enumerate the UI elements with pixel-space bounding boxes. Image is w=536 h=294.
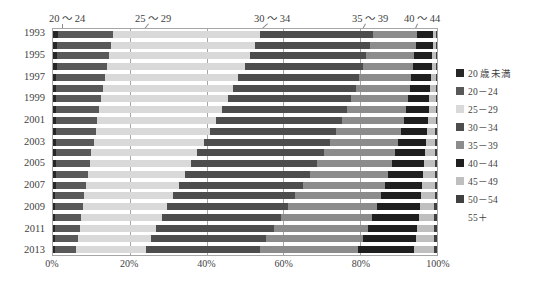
- bar-segment: [56, 171, 88, 178]
- legend-item[interactable]: 35－39: [456, 136, 536, 154]
- bar-segment: [424, 160, 435, 167]
- bar-segment: [86, 182, 179, 189]
- stacked-bar-1993[interactable]: [53, 31, 437, 38]
- bar-segment: [216, 117, 342, 124]
- bar-row: [53, 104, 437, 115]
- bar-segment: [417, 31, 433, 38]
- stacked-bar-2004[interactable]: [53, 149, 437, 156]
- bar-segment: [94, 139, 204, 146]
- bar-row: [53, 201, 437, 212]
- bar-row: [53, 115, 437, 126]
- bar-segment: [295, 192, 380, 199]
- y-axis-label-2009: 2009: [0, 202, 50, 213]
- bar-segment: [90, 160, 191, 167]
- bar-segment: [281, 214, 373, 221]
- legend-swatch: [456, 69, 464, 77]
- bar-segment: [260, 246, 359, 253]
- legend-swatch: [456, 87, 464, 95]
- bar-segment: [422, 182, 435, 189]
- stacked-bar-2000[interactable]: [53, 106, 437, 113]
- legend-item[interactable]: 50－54: [456, 190, 536, 208]
- legend-swatch: [456, 177, 464, 185]
- bar-segment: [56, 139, 94, 146]
- stacked-bar-2009[interactable]: [53, 203, 437, 210]
- bar-segment: [179, 182, 303, 189]
- bar-segment: [173, 192, 296, 199]
- bar-row: [53, 244, 437, 255]
- legend-label: 40－44: [468, 156, 498, 170]
- bar-segment: [377, 203, 420, 210]
- bar-segment: [388, 171, 422, 178]
- legend-item[interactable]: 45－49: [456, 172, 536, 190]
- bar-segment: [83, 203, 167, 210]
- bar-segment: [414, 52, 432, 59]
- bar-segment: [222, 106, 347, 113]
- stacked-bar-2007[interactable]: [53, 182, 437, 189]
- stacked-bar-1994[interactable]: [53, 42, 437, 49]
- y-axis-label-2005: 2005: [0, 158, 50, 169]
- bar-segment: [55, 214, 81, 221]
- bar-segment: [310, 171, 388, 178]
- bar-segment: [228, 95, 352, 102]
- bar-segment: [288, 203, 376, 210]
- bar-row: [53, 169, 437, 180]
- bar-segment: [368, 225, 417, 232]
- legend-item[interactable]: 30－34: [456, 118, 536, 136]
- stacked-bar-1997[interactable]: [53, 74, 437, 81]
- bar-segment: [420, 203, 435, 210]
- stacked-bar-2013[interactable]: [53, 246, 437, 253]
- stacked-bar-1995[interactable]: [53, 52, 437, 59]
- stacked-bar-2010[interactable]: [53, 214, 437, 221]
- legend-label: 35－39: [468, 138, 498, 152]
- bar-row: [53, 223, 437, 234]
- legend-label: 50－54: [468, 192, 498, 206]
- bar-segment: [347, 106, 406, 113]
- bar-segment: [105, 74, 239, 81]
- bar-segment: [413, 63, 431, 70]
- bar-segment: [260, 31, 373, 38]
- stacked-bar-2006[interactable]: [53, 171, 437, 178]
- legend-item[interactable]: 55＋: [456, 208, 536, 226]
- bar-segment: [395, 149, 425, 156]
- bar-segment: [101, 95, 227, 102]
- bar-row: [53, 61, 437, 72]
- stacked-bar-2003[interactable]: [53, 139, 437, 146]
- bar-segment: [423, 171, 435, 178]
- bar-segment: [156, 225, 273, 232]
- bar-segment: [107, 63, 244, 70]
- bar-row: [53, 190, 437, 201]
- y-axis: 1993199519971999200120032005200720092011…: [0, 28, 50, 256]
- bar-row: [53, 94, 437, 105]
- stacked-bar-2002[interactable]: [53, 128, 437, 135]
- legend-item[interactable]: 40－44: [456, 154, 536, 172]
- bar-segment: [84, 192, 172, 199]
- bar-segment: [303, 182, 385, 189]
- y-axis-label-1997: 1997: [0, 71, 50, 82]
- bar-segment: [185, 171, 310, 178]
- bar-segment: [398, 139, 426, 146]
- bar-segment: [191, 160, 317, 167]
- stacked-bar-1999[interactable]: [53, 95, 437, 102]
- stacked-bar-2012[interactable]: [53, 235, 437, 242]
- stacked-bar-2011[interactable]: [53, 225, 437, 232]
- bar-segment: [336, 128, 401, 135]
- legend-swatch: [456, 159, 464, 167]
- stacked-bar-2001[interactable]: [53, 117, 437, 124]
- x-axis-tick: 80%: [352, 258, 370, 269]
- stacked-bar-1998[interactable]: [53, 85, 437, 92]
- legend-item[interactable]: 25－29: [456, 100, 536, 118]
- bar-segment: [404, 117, 428, 124]
- bar-segment: [56, 85, 103, 92]
- stacked-bar-1996[interactable]: [53, 63, 437, 70]
- y-axis-label-1993: 1993: [0, 28, 50, 39]
- x-axis-tick: 0%: [45, 258, 58, 269]
- bar-segment: [317, 160, 392, 167]
- legend-item[interactable]: 20 歳未満: [456, 64, 536, 82]
- bar-segment: [57, 63, 107, 70]
- stacked-bar-2008[interactable]: [53, 192, 437, 199]
- stacked-bar-2005[interactable]: [53, 160, 437, 167]
- legend: 20 歳未満20－2425－2930－3435－3940－4445－4950－5…: [456, 64, 536, 226]
- legend-item[interactable]: 20－24: [456, 82, 536, 100]
- chart-root: 20 ～ 2425 ～ 2930 ～ 3435 ～ 3940 ～ 44 1993…: [0, 0, 536, 294]
- bar-segment: [55, 225, 80, 232]
